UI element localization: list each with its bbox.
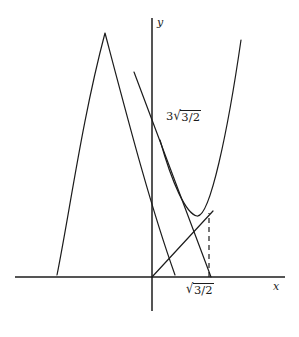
x-intercept-radical: √3/2 [186,283,214,296]
x-intercept-label: √3/2 [186,283,214,296]
math-figure-canvas: y x [0,0,299,337]
y-intercept-coefficient: 3 [166,110,173,122]
y-intercept-label: 3√3/2 [166,110,201,123]
chord-from-origin [152,211,213,277]
y-axis-label: y [156,16,164,29]
downward-parabola-left-curve [57,33,175,275]
upward-parabola-right-curve [160,40,241,216]
y-intercept-radical: √3/2 [173,110,201,123]
x-intercept-radicand: 3/2 [193,283,214,296]
radical-sign-icon: √ [173,110,180,124]
x-axis-label: x [273,280,280,293]
radical-sign-icon: √ [186,283,193,297]
tangent-line [134,72,211,277]
y-intercept-radicand: 3/2 [180,110,201,123]
